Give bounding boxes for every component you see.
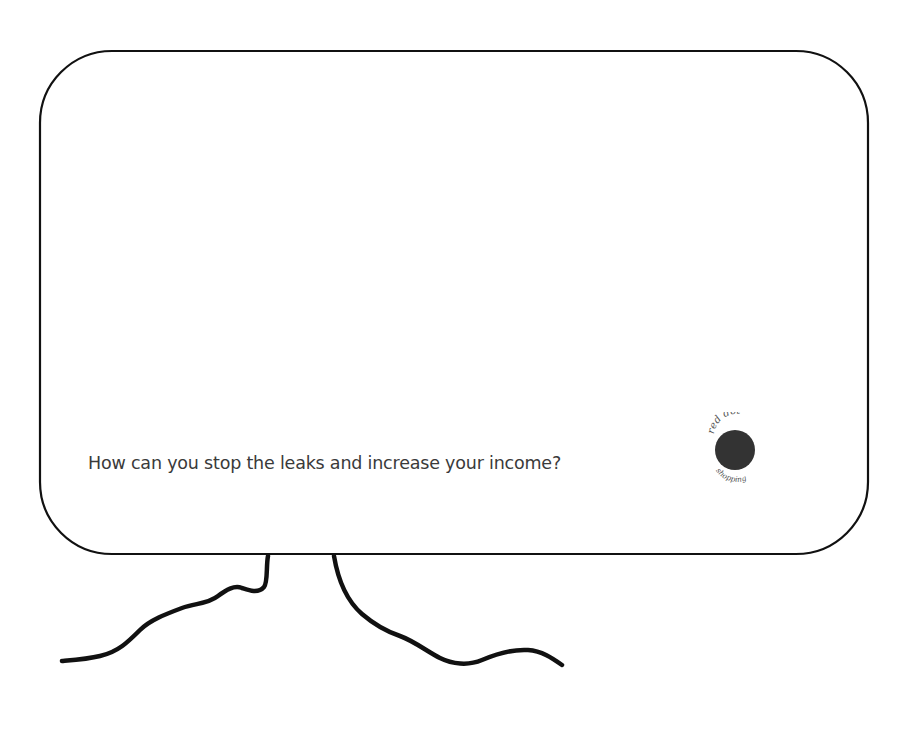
left-cable xyxy=(62,556,268,661)
red-dot-shopping-logo: red dot shopping xyxy=(702,412,772,484)
illustration xyxy=(0,0,911,738)
slide-caption: How can you stop the leaks and increase … xyxy=(88,453,561,473)
right-cable xyxy=(334,556,562,665)
red-dot-icon xyxy=(715,430,755,470)
